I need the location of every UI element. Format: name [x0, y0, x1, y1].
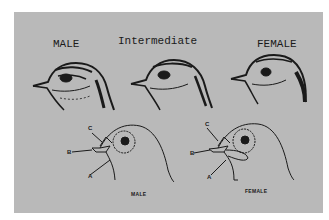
pointer-b-male: B: [67, 149, 71, 155]
pointer-c-female: C: [205, 121, 209, 127]
pointer-c-male: C: [88, 125, 92, 131]
male-head-drawing: [33, 63, 114, 110]
label-female-diagram: FEMALE: [245, 188, 267, 194]
intermediate-head-drawing: [131, 60, 212, 110]
pointer-b-female: B: [190, 150, 194, 156]
label-male-diagram: MALE: [131, 191, 146, 197]
pointer-a-male: A: [88, 173, 92, 179]
female-diagram: [194, 124, 294, 180]
pointer-a-female: A: [207, 174, 211, 180]
female-head-drawing: [231, 55, 306, 104]
bird-heads-illustration: [0, 0, 329, 220]
